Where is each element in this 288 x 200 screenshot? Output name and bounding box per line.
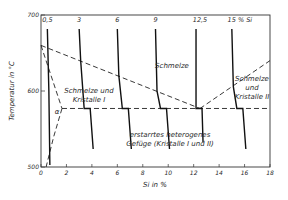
- cooling-curve: [47, 29, 50, 165]
- region-label-melt-crystals-II-line2: und: [245, 84, 259, 92]
- solvus-alpha-line: [46, 108, 62, 167]
- phase-diagram: 024681012141618500600700 0,536912,515 % …: [0, 0, 288, 200]
- y-tick-label: 700: [28, 11, 40, 18]
- region-label-melt: Schmelze: [155, 62, 189, 70]
- y-tick-label: 500: [28, 163, 40, 170]
- region-label-solid-line2: Gefüge (Kristalle I und II): [126, 140, 214, 148]
- region-label-melt-crystals-II-line3: Kristalle II: [235, 93, 270, 101]
- liquidus-left-line: [41, 45, 200, 108]
- x-tick-label: 14: [215, 169, 223, 176]
- x-tick-label: 6: [115, 169, 119, 176]
- x-axis-label: Si in %: [143, 181, 167, 189]
- cooling-curve-label: 12,5: [193, 16, 207, 24]
- x-tick-label: 18: [266, 169, 274, 176]
- x-tick-label: 8: [141, 169, 145, 176]
- x-tick-label: 2: [65, 169, 69, 176]
- cooling-curve-label: 15 % Si: [228, 16, 253, 24]
- region-label-melt-crystals-I-line1: Schmelze und: [64, 87, 114, 95]
- cooling-curve-label: 9: [153, 16, 157, 24]
- x-tick-label: 10: [164, 169, 172, 176]
- region-label-solid-line1: erstarrtes heterogenes: [130, 131, 211, 139]
- x-tick-label: 4: [90, 169, 94, 176]
- y-axis-label: Temperatur in °C: [8, 61, 16, 121]
- cooling-curve: [232, 29, 246, 149]
- cooling-curve: [196, 29, 203, 142]
- x-tick-label: 16: [241, 169, 249, 176]
- region-label-alpha: α: [55, 108, 60, 116]
- solidus-alpha-line: [41, 45, 62, 108]
- cooling-curve-label: 3: [77, 16, 81, 24]
- region-label-melt-crystals-I-line2: Kristalle I: [73, 96, 106, 104]
- cooling-curve-label: 0,5: [42, 16, 52, 24]
- cooling-curve-label: 6: [115, 16, 119, 24]
- y-tick-label: 600: [28, 87, 40, 94]
- region-label-melt-crystals-II-line1: Schmelze: [235, 75, 269, 83]
- x-tick-label: 12: [190, 169, 198, 176]
- x-tick-label: 0: [39, 169, 43, 176]
